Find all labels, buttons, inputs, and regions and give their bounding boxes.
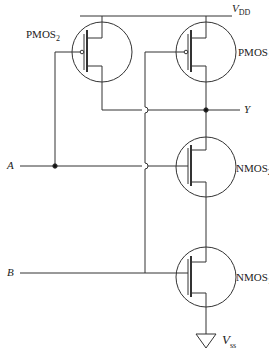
pmos1-symbol	[145, 16, 236, 273]
nmos1-label: NMOS1	[236, 271, 269, 286]
input-a-label: A	[7, 159, 14, 171]
pmos2-symbol	[55, 16, 132, 166]
pmos1-label: PMOS1	[238, 46, 269, 61]
vdd-label: VDD	[232, 2, 250, 17]
ground-symbol	[196, 334, 216, 348]
output-y-label: Y	[244, 103, 250, 115]
input-b-label: B	[7, 266, 14, 278]
pmos2-label: PMOS2	[26, 28, 60, 43]
nmos2-symbol	[176, 137, 236, 262]
vss-label: Vss	[222, 332, 236, 350]
nmos2-label: NMOS2	[236, 162, 269, 177]
circuit-schematic	[0, 0, 269, 356]
